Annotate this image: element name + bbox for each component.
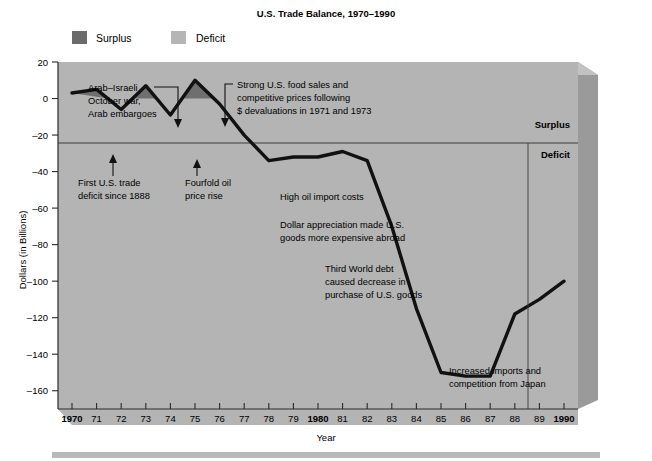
y-tick-label: –80 — [32, 239, 48, 250]
annotation-line: caused decrease in — [325, 277, 406, 287]
x-tick-label: 71 — [91, 413, 102, 424]
x-tick-label: 82 — [362, 413, 373, 424]
y-tick-label: –100 — [27, 276, 48, 287]
y-tick-label: 20 — [37, 57, 48, 68]
x-tick-label: 89 — [534, 413, 545, 424]
annotation-line: goods more expensive abroad — [280, 233, 405, 243]
x-tick-label: 77 — [239, 413, 250, 424]
y-tick-label: –60 — [32, 203, 48, 214]
y-tick-label: –120 — [27, 312, 48, 323]
legend-swatch-deficit — [171, 31, 186, 44]
annotation-line: competition from Japan — [449, 379, 546, 389]
y-tick-label: –160 — [27, 385, 48, 396]
x-tick-label: 78 — [264, 413, 275, 424]
legend-label-deficit: Deficit — [196, 32, 225, 44]
annotation-line: $ devaluations in 1971 and 1973 — [237, 106, 371, 116]
annotation-line: Strong U.S. food sales and — [237, 80, 348, 90]
x-tick-label: 1970 — [61, 413, 82, 424]
annotation-line: High oil import costs — [280, 192, 364, 202]
legend-label-surplus: Surplus — [96, 32, 132, 44]
annotation-line: Third World debt — [325, 264, 394, 274]
x-tick-label: 72 — [116, 413, 127, 424]
annotation-line: competitive prices following — [237, 93, 350, 103]
annotation-line: Increased imports and — [449, 366, 541, 376]
x-tick-label: 74 — [165, 413, 176, 424]
y-axis-label: Dollars (in Billions) — [17, 211, 28, 290]
y-tick-label: 0 — [43, 93, 48, 104]
footer-band — [52, 452, 600, 458]
annotation-line: First U.S. trade — [78, 178, 141, 188]
x-tick-label: 79 — [288, 413, 299, 424]
annotation-high-oil-import: High oil import costs — [280, 192, 364, 202]
x-tick-label: 76 — [214, 413, 225, 424]
annotation-line: purchase of U.S. goods — [325, 290, 423, 300]
y-tick-label: –20 — [32, 130, 48, 141]
page-title: U.S. Trade Balance, 1970–1990 — [257, 8, 395, 19]
x-tick-label: 87 — [485, 413, 496, 424]
surplus-zone-label: Surplus — [535, 119, 570, 130]
annotation-line: Arab–Israeli — [88, 83, 138, 93]
y-tick-label: –40 — [32, 166, 48, 177]
y-tick-label: –140 — [27, 349, 48, 360]
legend-swatch-surplus — [72, 31, 87, 44]
deficit-zone-label: Deficit — [541, 149, 571, 160]
x-tick-label: 83 — [387, 413, 398, 424]
x-tick-label: 1990 — [553, 413, 574, 424]
annotation-line: Dollar appreciation made U.S. — [280, 220, 404, 230]
x-tick-label: 86 — [460, 413, 471, 424]
trade-balance-chart: U.S. Trade Balance, 1970–1990 Surplus De… — [0, 0, 652, 461]
x-tick-label: 84 — [411, 413, 422, 424]
x-tick-label: 88 — [510, 413, 521, 424]
x-tick-label: 1980 — [307, 413, 328, 424]
annotation-line: Arab embargoes — [88, 109, 157, 119]
x-tick-label: 85 — [436, 413, 447, 424]
annotation-line: price rise — [185, 191, 223, 201]
x-axis-label: Year — [316, 432, 335, 443]
annotation-line: October war, — [88, 96, 141, 106]
x-tick-label: 81 — [337, 413, 348, 424]
annotation-line: deficit since 1888 — [78, 191, 150, 201]
annotation-line: Fourfold oil — [185, 178, 231, 188]
x-tick-label: 75 — [190, 413, 201, 424]
x-tick-label: 73 — [141, 413, 152, 424]
